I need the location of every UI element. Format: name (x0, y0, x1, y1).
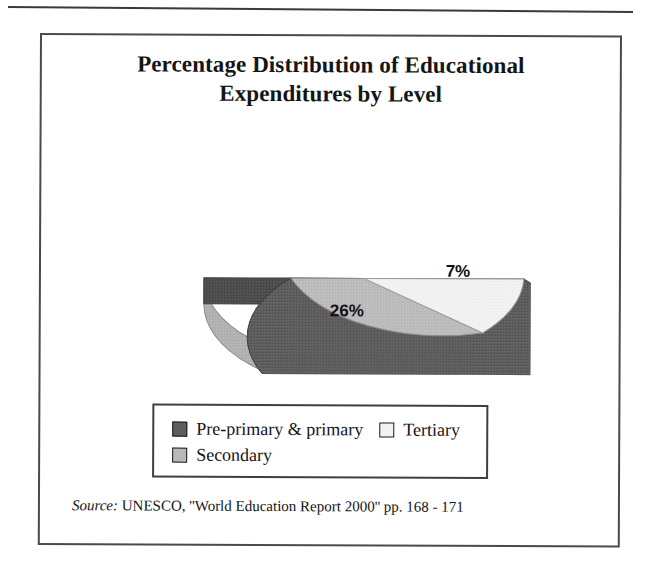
chart-legend: Pre-primary & primary Tertiary Secondary (152, 403, 488, 478)
pie-chart: 63% 26% 7% (131, 123, 532, 375)
legend-label-tertiary: Tertiary (403, 420, 460, 440)
source-label: Source: (72, 497, 118, 513)
legend-swatch-icon-secondary (172, 447, 187, 462)
legend-item-secondary[interactable]: Secondary (172, 445, 272, 465)
source-note: Source: UNESCO, ''World Education Report… (72, 497, 464, 516)
legend-item-tertiary[interactable]: Tertiary (379, 419, 460, 439)
source-text: UNESCO, ''World Education Report 2000'' … (118, 497, 464, 515)
legend-row-2: Secondary (172, 442, 486, 469)
legend-label-secondary: Secondary (196, 445, 272, 465)
page-title: Percentage Distribution of Educational E… (42, 49, 620, 110)
legend-label-pre-primary-and-primary: Pre-primary & primary (196, 419, 363, 440)
legend-swatch-icon-pre-primary-and-primary (172, 421, 187, 436)
page-top-rule (8, 6, 633, 13)
legend-row-1: Pre-primary & primary Tertiary (172, 416, 486, 443)
chart-title-line-2: Expenditures by Level (42, 78, 620, 110)
pie-chart-svg: 63% 26% 7% (131, 123, 532, 375)
chart-title-line-1: Percentage Distribution of Educational (137, 51, 524, 78)
legend-item-pre-primary-and-primary[interactable]: Pre-primary & primary (172, 419, 363, 440)
pie-label-secondary: 26% (330, 301, 364, 320)
legend-swatch-icon-tertiary (379, 422, 394, 437)
figure-frame: Percentage Distribution of Educational E… (38, 33, 622, 548)
pie-label-tertiary: 7% (446, 262, 471, 281)
pie-label-pre-primary-and-primary: 63% (276, 165, 310, 184)
